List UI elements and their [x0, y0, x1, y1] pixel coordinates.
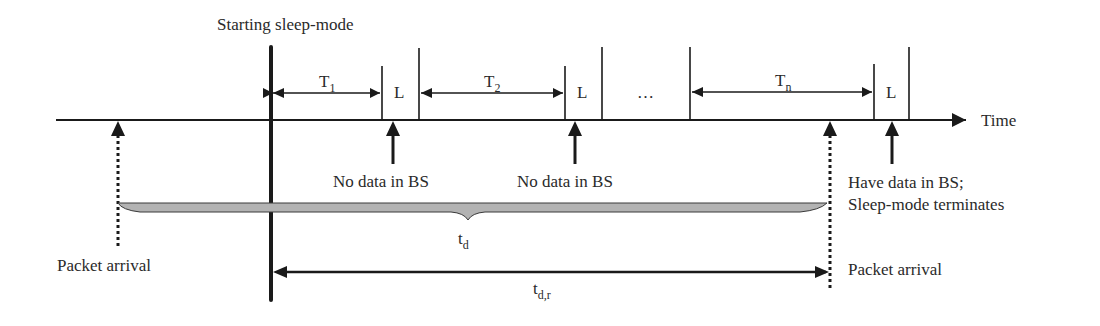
svg-text:T2: T2: [484, 72, 500, 95]
ellipsis: …: [637, 83, 654, 102]
time-axis-label: Time: [981, 111, 1016, 130]
no-data-in-bs-label-1: No data in BS: [333, 172, 429, 191]
listen-window-2: L: [577, 83, 587, 102]
period-t1: T1: [273, 72, 380, 98]
response-delay-label: td,r: [533, 279, 551, 302]
delay-label: td: [458, 229, 469, 252]
listen-window-n: L: [886, 83, 896, 102]
starting-sleep-mode-label: Starting sleep-mode: [217, 15, 353, 34]
packet-arrival-arrow-right: [823, 121, 837, 290]
delay-brace: [118, 203, 827, 220]
packet-arrival-label-left: Packet arrival: [57, 256, 151, 275]
listen-window-1: L: [394, 83, 404, 102]
bs-check-arrow-2: [568, 121, 582, 164]
bs-check-arrow-1: [386, 121, 400, 164]
packet-arrival-label-right: Packet arrival: [848, 260, 942, 279]
svg-text:Tn: Tn: [775, 71, 791, 94]
period-t2: T2: [421, 72, 563, 98]
have-data-in-bs-label: Have data in BS;: [848, 173, 964, 192]
period-tn: Tn: [692, 71, 872, 97]
no-data-in-bs-label-2: No data in BS: [517, 172, 613, 191]
sleep-mode-timeline-diagram: Time Starting sleep-mode T1 L T2 L … Tn …: [0, 0, 1100, 326]
packet-arrival-arrow-left: [111, 121, 125, 247]
svg-text:T1: T1: [319, 72, 335, 95]
response-delay-arrow: [273, 266, 829, 278]
sleep-mode-terminates-label: Sleep-mode terminates: [848, 195, 1004, 214]
bs-check-arrow-final: [885, 121, 899, 164]
